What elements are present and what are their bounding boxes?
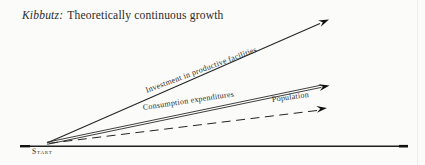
population-line — [49, 111, 317, 144]
investment-arrowhead-icon — [318, 16, 330, 26]
consumption-arrowhead-icon — [319, 82, 331, 91]
growth-diagram — [0, 0, 425, 165]
population-arrowhead-icon — [316, 105, 327, 113]
start-label: Start — [32, 147, 53, 156]
investment-line — [47, 24, 320, 144]
figure-canvas: Kibbutz:Theoretically continuous growth … — [0, 0, 425, 165]
scanned-page-edge — [417, 0, 418, 165]
